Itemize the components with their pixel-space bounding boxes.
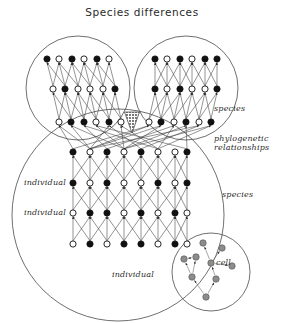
node-open [155, 149, 161, 155]
node-filled [158, 119, 164, 125]
cell-edge [205, 247, 210, 259]
node-open [121, 210, 127, 216]
node-open [155, 241, 161, 247]
node-open [164, 86, 170, 92]
node-filled [138, 241, 144, 247]
node-open [56, 56, 62, 62]
node-open [87, 149, 93, 155]
node-filled [121, 241, 127, 247]
node-open [121, 149, 127, 155]
cell-edge [188, 258, 192, 259]
node-open [184, 241, 190, 247]
node-filled [81, 119, 87, 125]
label-phylogenetic-relationships: phylogenetic relationships [214, 134, 269, 152]
node-filled [214, 86, 220, 92]
cell-node [203, 294, 209, 300]
node-open [146, 119, 152, 125]
cell-node [213, 276, 219, 282]
label-cell: cell [216, 258, 231, 267]
node-open [121, 180, 127, 186]
node-open [104, 241, 110, 247]
node-open [81, 56, 87, 62]
node-filled [104, 210, 110, 216]
node-filled [184, 149, 190, 155]
node-filled [172, 241, 178, 247]
node-filled [62, 86, 68, 92]
cell-node [208, 260, 214, 266]
node-open [184, 210, 190, 216]
node-open [171, 119, 177, 125]
node-filled [69, 56, 75, 62]
cell-edge [208, 283, 214, 294]
cell-node-layer [181, 240, 235, 300]
node-open [70, 210, 76, 216]
edge [47, 63, 65, 86]
cell-node [200, 240, 206, 246]
node-filled [44, 56, 50, 62]
node-open [155, 210, 161, 216]
node-filled [70, 180, 76, 186]
node-filled [138, 210, 144, 216]
cell-node [181, 256, 187, 262]
node-open [87, 180, 93, 186]
label-individual-3: individual [98, 270, 154, 279]
node-filled [94, 56, 100, 62]
edge [72, 63, 90, 86]
node-open [164, 56, 170, 62]
edge [167, 93, 174, 119]
label-species-bottom: species [222, 190, 253, 199]
node-filled [183, 119, 189, 125]
edge [53, 93, 71, 119]
node-layer [44, 56, 220, 247]
node-open [118, 119, 124, 125]
cell-edge [212, 267, 214, 275]
node-filled [152, 86, 158, 92]
node-filled [87, 241, 93, 247]
node-open [189, 86, 195, 92]
node-filled [177, 86, 183, 92]
node-filled [155, 180, 161, 186]
node-filled [106, 119, 112, 125]
edge [155, 93, 161, 119]
node-filled [202, 56, 208, 62]
node-filled [104, 149, 110, 155]
node-open [93, 119, 99, 125]
edge [180, 93, 186, 119]
node-filled [177, 56, 183, 62]
node-filled [208, 119, 214, 125]
edge [71, 126, 124, 149]
node-open [196, 119, 202, 125]
cell-node [189, 274, 195, 280]
node-open [75, 86, 81, 92]
node-filled [104, 180, 110, 186]
node-open [189, 56, 195, 62]
cell-node [193, 254, 199, 260]
node-filled [214, 56, 220, 62]
node-filled [184, 180, 190, 186]
edge [192, 93, 199, 119]
node-filled [68, 119, 74, 125]
edge [97, 63, 115, 86]
edge [78, 93, 96, 119]
label-individual-2: individual [8, 208, 66, 217]
node-open [56, 119, 62, 125]
node-open [50, 86, 56, 92]
cell-edge [193, 261, 195, 273]
node-filled [152, 56, 158, 62]
node-open [172, 149, 178, 155]
node-open [202, 86, 208, 92]
label-individual-1: individual [10, 178, 66, 187]
node-open [87, 86, 93, 92]
cell-edge [186, 263, 191, 273]
node-filled [138, 149, 144, 155]
edge [186, 126, 187, 149]
node-open [138, 180, 144, 186]
node-filled [172, 210, 178, 216]
edge [103, 93, 121, 119]
cell-node [219, 245, 225, 251]
edge [205, 93, 211, 119]
edge [59, 126, 90, 149]
node-open [106, 56, 112, 62]
node-filled [87, 210, 93, 216]
divergence-triangle [125, 112, 140, 133]
